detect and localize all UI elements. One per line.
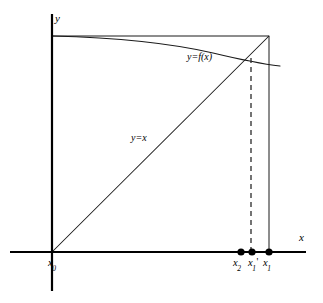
curve-label-close: ) — [209, 51, 212, 62]
diagonal-label-lead: y= — [131, 132, 142, 143]
marker-dot-x2 — [237, 248, 244, 255]
prime-mark-icon: ' — [256, 256, 258, 267]
tick-label-x2: x2 — [233, 258, 241, 271]
figure-canvas: y x y=f(x) y=x x0 x2 x1' x1 — [0, 0, 323, 303]
tick-label-x1-prime: x1' — [248, 258, 258, 271]
diagonal-label-arg: x — [142, 132, 146, 143]
diagonal-label-y-equals-x: y=x — [131, 133, 147, 143]
y-axis-label: y — [55, 13, 60, 24]
tick-label-x2-subscript: 2 — [237, 264, 241, 273]
curve-label-lead: y=f( — [187, 51, 204, 62]
marker-dot-x1 — [265, 248, 272, 255]
x-axis-label: x — [299, 232, 304, 243]
curve-label-y-equals-f-of-x: y=f(x) — [187, 52, 212, 62]
tick-label-x0: x0 — [48, 258, 56, 271]
function-curve-y-equals-f-of-x — [52, 36, 280, 66]
marker-dot-x1-prime — [248, 248, 255, 255]
tick-label-x0-subscript: 0 — [52, 264, 56, 273]
identity-line-y-equals-x — [52, 36, 269, 252]
tick-label-x1: x1 — [263, 258, 271, 271]
tick-label-x1-subscript: 1 — [267, 264, 271, 273]
